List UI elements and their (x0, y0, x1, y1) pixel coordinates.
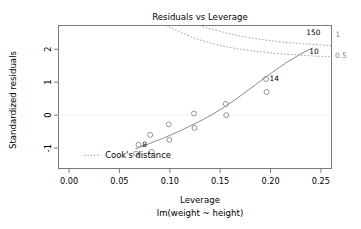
x-tick-label: 0.10 (161, 176, 179, 186)
page-title: Residuals vs Leverage (152, 12, 248, 22)
y-axis-title: Standardized residuals (8, 50, 18, 149)
x-axis-title: Leverage (180, 195, 220, 205)
data-point-label: 8 (142, 140, 147, 149)
data-point-label: 14 (270, 74, 280, 83)
x-tick-label: 0.20 (261, 176, 279, 186)
outlier-label: 150 (306, 28, 320, 37)
residuals-vs-leverage-plot: Residuals vs Leverage 0.000.050.100.150.… (0, 0, 361, 229)
cooks-contour-level-label: 0.5 (335, 51, 347, 60)
cooks-contour-level-label: 1 (335, 30, 340, 39)
y-tick-label: 0 (44, 113, 54, 118)
x-tick-label: 0.25 (312, 176, 330, 186)
outlier-label: 10 (309, 47, 319, 56)
plot-canvas: Residuals vs Leverage 0.000.050.100.150.… (0, 0, 361, 229)
model-formula-label: lm(weight ~ height) (157, 208, 244, 218)
x-tick-label: 0.05 (110, 176, 128, 186)
y-tick-label: 1 (44, 80, 54, 85)
legend-label: Cook's distance (105, 150, 171, 160)
x-tick-label: 0.00 (60, 176, 78, 186)
x-tick-label: 0.15 (211, 176, 229, 186)
y-tick-label: 2 (44, 47, 54, 52)
y-tick-label: -1 (44, 144, 54, 152)
